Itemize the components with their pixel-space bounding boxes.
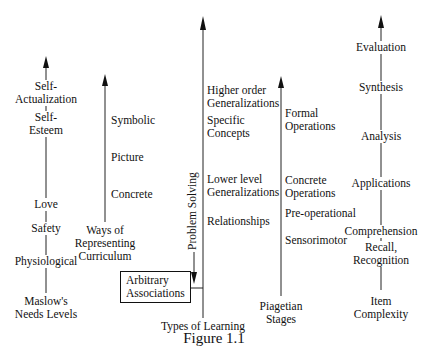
label-line: Concepts bbox=[207, 127, 250, 140]
label-line: Generalizations bbox=[207, 186, 279, 199]
piaget-level-sensorimotor: Sensorimotor bbox=[285, 234, 347, 247]
title-line: Maslow's bbox=[15, 295, 77, 308]
label-line: Pre-operational bbox=[285, 207, 356, 220]
curriculum-axis-arrow bbox=[102, 74, 108, 222]
box-line: Arbitrary bbox=[126, 274, 185, 287]
complexity-level-evaluation: Evaluation bbox=[355, 41, 407, 54]
complexity-level-applications: Applications bbox=[351, 177, 412, 190]
label-line: Evaluation bbox=[356, 41, 406, 54]
box-line: Associations bbox=[126, 287, 185, 300]
complexity-level-synthesis: Synthesis bbox=[358, 81, 404, 94]
label-line: Specific bbox=[207, 114, 250, 127]
label-line: Love bbox=[34, 198, 58, 211]
learning-level-lower-level-generalizations: Lower level Generalizations bbox=[207, 173, 279, 199]
title-line: Complexity bbox=[354, 308, 408, 321]
maslow-level-love: Love bbox=[33, 198, 59, 211]
label-line: Concrete bbox=[285, 174, 335, 187]
label-line: Comprehension bbox=[345, 225, 418, 238]
learning-level-higher-order-generalizations: Higher order Generalizations bbox=[207, 84, 279, 110]
label-line: Recognition bbox=[353, 254, 409, 267]
piaget-title: Piagetian Stages bbox=[260, 300, 303, 326]
complexity-level-comprehension: Comprehension bbox=[344, 225, 419, 238]
label-line: Concrete bbox=[111, 188, 153, 201]
curriculum-title: Ways of Representing Curriculum bbox=[75, 224, 136, 263]
title-line: Representing bbox=[75, 237, 136, 250]
label-line: Safety bbox=[31, 222, 60, 235]
learning-axis-arrow bbox=[200, 16, 206, 318]
learning-level-specific-concepts: Specific Concepts bbox=[207, 114, 250, 140]
label-line: Analysis bbox=[361, 130, 401, 143]
label-line: Formal bbox=[285, 107, 335, 120]
maslow-level-self-esteem: Self- Esteem bbox=[28, 111, 64, 137]
label-line: Actualization bbox=[15, 93, 77, 106]
title-line: Needs Levels bbox=[15, 308, 77, 321]
label-line: Higher order bbox=[207, 84, 279, 97]
piaget-level-formal-operations: Formal Operations bbox=[285, 107, 335, 133]
complexity-level-recall-recognition: Recall, Recognition bbox=[352, 241, 410, 267]
maslow-title: Maslow's Needs Levels bbox=[14, 295, 78, 321]
piaget-level-pre-operational: Pre-operational bbox=[285, 207, 356, 220]
label-line: Operations bbox=[285, 187, 335, 200]
maslow-level-physiological: Physiological bbox=[14, 255, 79, 268]
label-line: Esteem bbox=[29, 124, 63, 137]
title-line: Curriculum bbox=[75, 250, 136, 263]
curriculum-level-symbolic: Symbolic bbox=[111, 114, 155, 127]
complexity-level-analysis: Analysis bbox=[360, 130, 402, 143]
label-line: Self- bbox=[29, 111, 63, 124]
label-line: Sensorimotor bbox=[285, 234, 347, 247]
piaget-level-concrete-operations: Concrete Operations bbox=[285, 174, 335, 200]
figure-caption: Figure 1.1 bbox=[183, 330, 245, 347]
curriculum-level-picture: Picture bbox=[111, 151, 144, 164]
problem-solving-label: Problem Solving bbox=[186, 170, 198, 252]
label-line: Relationships bbox=[207, 215, 270, 228]
title-line: Item bbox=[354, 295, 408, 308]
label-line: Applications bbox=[352, 177, 411, 190]
label-line: Operations bbox=[285, 120, 335, 133]
title-line: Ways of bbox=[75, 224, 136, 237]
maslow-level-safety: Safety bbox=[30, 222, 61, 235]
complexity-title: Item Complexity bbox=[354, 295, 408, 321]
label-line: Self- bbox=[15, 80, 77, 93]
title-line: Stages bbox=[260, 313, 303, 326]
label-line: Symbolic bbox=[111, 114, 155, 127]
curriculum-level-concrete: Concrete bbox=[111, 188, 153, 201]
label-line: Recall, bbox=[353, 241, 409, 254]
label-line: Lower level bbox=[207, 173, 279, 186]
maslow-level-self-actualization: Self- Actualization bbox=[14, 80, 78, 106]
learning-level-relationships: Relationships bbox=[207, 215, 270, 228]
label-line: Picture bbox=[111, 151, 144, 164]
label-line: Synthesis bbox=[359, 81, 403, 94]
arbitrary-associations-box: Arbitrary Associations bbox=[120, 271, 191, 303]
label-line: Generalizations bbox=[207, 97, 279, 110]
title-line: Piagetian bbox=[260, 300, 303, 313]
label-line: Physiological bbox=[15, 255, 78, 268]
